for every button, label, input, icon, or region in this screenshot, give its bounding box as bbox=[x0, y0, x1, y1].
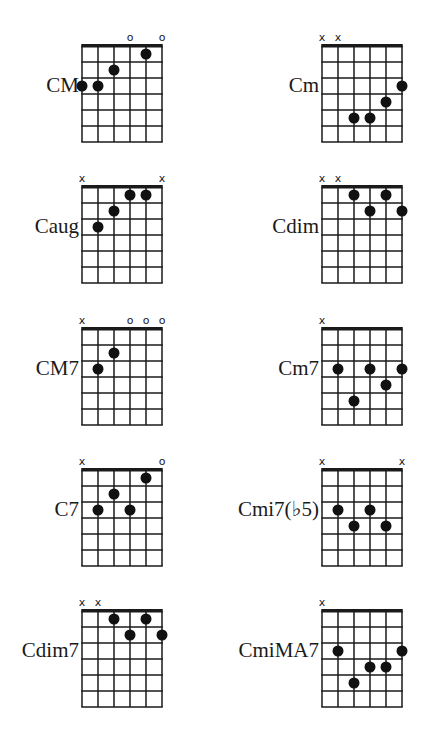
finger-dot-icon bbox=[349, 190, 360, 201]
finger-dot-icon bbox=[365, 662, 376, 673]
finger-dot-icon bbox=[381, 662, 392, 673]
finger-dot-icon bbox=[109, 614, 120, 625]
finger-dot-icon bbox=[125, 505, 136, 516]
open-string-icon: o bbox=[127, 314, 134, 327]
finger-dot-icon bbox=[109, 206, 120, 217]
open-string-icon: o bbox=[159, 31, 166, 44]
muted-string-icon: x bbox=[319, 172, 326, 185]
muted-string-icon: x bbox=[399, 455, 406, 468]
finger-dot-icon bbox=[141, 49, 152, 60]
nut bbox=[81, 327, 163, 331]
finger-dot-icon bbox=[333, 646, 344, 657]
finger-dot-icon bbox=[365, 505, 376, 516]
open-string-icon: o bbox=[143, 314, 150, 327]
muted-string-icon: x bbox=[79, 596, 86, 609]
muted-string-icon: x bbox=[335, 31, 342, 44]
nut bbox=[81, 468, 163, 472]
nut bbox=[321, 468, 403, 472]
nut bbox=[81, 609, 163, 613]
finger-dot-icon bbox=[109, 489, 120, 500]
fretboard-grid: xx bbox=[0, 581, 212, 721]
fretboard-grid: xooo bbox=[0, 299, 212, 439]
finger-dot-icon bbox=[397, 81, 408, 92]
chord-diagram: Cdim7xx bbox=[0, 581, 212, 721]
finger-dot-icon bbox=[365, 113, 376, 124]
chord-diagram: Cdimxx bbox=[212, 157, 424, 297]
nut bbox=[321, 609, 403, 613]
finger-dot-icon bbox=[365, 206, 376, 217]
finger-dot-icon bbox=[397, 206, 408, 217]
open-string-icon: o bbox=[127, 31, 134, 44]
nut bbox=[321, 44, 403, 48]
finger-dot-icon bbox=[349, 678, 360, 689]
finger-dot-icon bbox=[125, 190, 136, 201]
fretboard-grid: x bbox=[212, 581, 424, 721]
muted-string-icon: x bbox=[159, 172, 166, 185]
muted-string-icon: x bbox=[319, 455, 326, 468]
finger-dot-icon bbox=[349, 521, 360, 532]
muted-string-icon: x bbox=[79, 172, 86, 185]
finger-dot-icon bbox=[365, 364, 376, 375]
chord-diagram: CmiMA7x bbox=[212, 581, 424, 721]
fretboard-grid: x bbox=[212, 299, 424, 439]
chord-diagram: Cmi7(♭5)xx bbox=[212, 440, 424, 580]
nut bbox=[321, 327, 403, 331]
fretboard-grid: xx bbox=[212, 16, 424, 156]
chord-diagram: Caugxx bbox=[0, 157, 212, 297]
muted-string-icon: x bbox=[79, 314, 86, 327]
muted-string-icon: x bbox=[319, 314, 326, 327]
muted-string-icon: x bbox=[335, 172, 342, 185]
finger-dot-icon bbox=[125, 630, 136, 641]
finger-dot-icon bbox=[109, 348, 120, 359]
fretboard-grid: xx bbox=[212, 157, 424, 297]
nut bbox=[81, 44, 163, 48]
finger-dot-icon bbox=[349, 113, 360, 124]
finger-dot-icon bbox=[77, 81, 88, 92]
muted-string-icon: x bbox=[319, 596, 326, 609]
fretboard-grid: xx bbox=[0, 157, 212, 297]
muted-string-icon: x bbox=[95, 596, 102, 609]
open-string-icon: o bbox=[159, 314, 166, 327]
fretboard-grid: xo bbox=[0, 440, 212, 580]
finger-dot-icon bbox=[397, 364, 408, 375]
finger-dot-icon bbox=[93, 222, 104, 233]
muted-string-icon: x bbox=[79, 455, 86, 468]
open-string-icon: o bbox=[159, 455, 166, 468]
finger-dot-icon bbox=[381, 380, 392, 391]
finger-dot-icon bbox=[381, 190, 392, 201]
chord-diagram: C7xo bbox=[0, 440, 212, 580]
finger-dot-icon bbox=[333, 505, 344, 516]
finger-dot-icon bbox=[93, 505, 104, 516]
fretboard-grid: oo bbox=[0, 16, 212, 156]
nut bbox=[321, 185, 403, 189]
finger-dot-icon bbox=[141, 190, 152, 201]
finger-dot-icon bbox=[349, 396, 360, 407]
finger-dot-icon bbox=[93, 81, 104, 92]
muted-string-icon: x bbox=[319, 31, 326, 44]
finger-dot-icon bbox=[141, 614, 152, 625]
chord-diagram: Cm7x bbox=[212, 299, 424, 439]
chord-diagram: CM7xooo bbox=[0, 299, 212, 439]
finger-dot-icon bbox=[333, 364, 344, 375]
finger-dot-icon bbox=[157, 630, 168, 641]
chord-diagram: CMoo bbox=[0, 16, 212, 156]
finger-dot-icon bbox=[109, 65, 120, 76]
finger-dot-icon bbox=[381, 97, 392, 108]
finger-dot-icon bbox=[397, 646, 408, 657]
fretboard-grid: xx bbox=[212, 440, 424, 580]
finger-dot-icon bbox=[141, 473, 152, 484]
finger-dot-icon bbox=[93, 364, 104, 375]
chord-diagram: Cmxx bbox=[212, 16, 424, 156]
nut bbox=[81, 185, 163, 189]
finger-dot-icon bbox=[381, 521, 392, 532]
